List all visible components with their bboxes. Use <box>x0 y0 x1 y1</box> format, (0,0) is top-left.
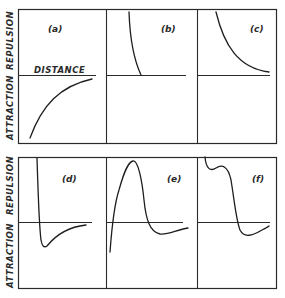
y-axis-labels-bottom: REPULSION ATTRACTION <box>5 156 15 289</box>
panel-c-curve <box>216 12 269 72</box>
panel-a-curve <box>30 79 92 138</box>
panel-a-label: (a) <box>48 24 62 34</box>
panel-b-curve <box>129 12 141 75</box>
panel-f: (f) <box>198 157 271 235</box>
repulsion-label-top: REPULSION <box>5 11 15 70</box>
panel-c-label: (c) <box>250 24 264 34</box>
panel-c: (c) <box>198 12 271 76</box>
panel-b-label: (b) <box>161 24 176 34</box>
panel-d-label: (d) <box>62 174 77 184</box>
panel-a: DISTANCE (a) <box>19 24 97 138</box>
panel-f-curve <box>205 157 269 235</box>
distance-label: DISTANCE <box>34 65 85 75</box>
top-row: DISTANCE (a) (b) (c) <box>19 10 277 144</box>
panel-e-label: (e) <box>167 174 181 184</box>
bottom-row: (d) (e) (f) <box>19 157 277 289</box>
interaction-potential-diagram: DISTANCE (a) (b) (c) (d) <box>0 0 285 298</box>
y-axis-labels-top: REPULSION ATTRACTION <box>5 11 15 141</box>
repulsion-label-bottom: REPULSION <box>5 156 15 215</box>
panel-e: (e) <box>107 161 189 252</box>
panel-f-label: (f) <box>252 174 264 184</box>
panel-d-curve <box>37 158 86 247</box>
panel-b: (b) <box>107 12 187 76</box>
panel-d: (d) <box>19 158 93 247</box>
attraction-label-bottom: ATTRACTION <box>5 223 15 289</box>
attraction-label-top: ATTRACTION <box>5 75 15 141</box>
